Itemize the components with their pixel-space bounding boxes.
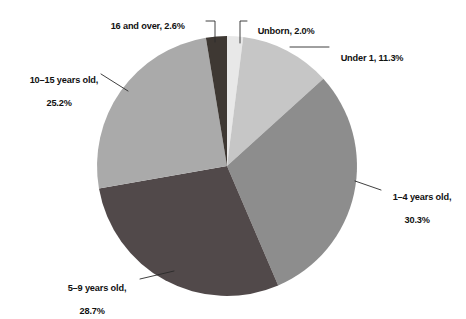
pie-slice-10-15-years-old[interactable] bbox=[97, 38, 227, 189]
leader-line-10-15-years-old bbox=[101, 74, 128, 91]
slice-label-10-15-years-old-line1: 10–15 years old, bbox=[30, 75, 99, 85]
pie-slices bbox=[97, 36, 357, 296]
slice-label-1-4-years-old: 1–4 years old, 30.3% bbox=[383, 181, 451, 249]
slice-label-5-9-years-old-line2: 28.7% bbox=[58, 306, 126, 317]
slice-label-16-and-over-text: 16 and over, 2.6% bbox=[111, 21, 185, 31]
slice-label-5-9-years-old-line1: 5–9 years old, bbox=[68, 283, 127, 293]
leader-line-1-4-years-old bbox=[355, 181, 381, 190]
slice-label-under-1-text: Under 1, 11.3% bbox=[341, 53, 404, 63]
slice-label-unborn-text: Unborn, 2.0% bbox=[258, 26, 315, 36]
slice-label-16-and-over: 16 and over, 2.6% bbox=[101, 10, 185, 44]
slice-label-under-1: Under 1, 11.3% bbox=[331, 42, 403, 76]
slice-label-10-15-years-old: 10–15 years old, 25.2% bbox=[20, 64, 98, 132]
slice-label-10-15-years-old-line2: 25.2% bbox=[20, 98, 98, 109]
slice-label-1-4-years-old-line2: 30.3% bbox=[383, 215, 451, 226]
slice-label-5-9-years-old: 5–9 years old, 28.7% bbox=[58, 272, 126, 319]
pie-chart-figure: 16 and over, 2.6% Unborn, 2.0% Under 1, … bbox=[0, 0, 466, 319]
slice-label-unborn: Unborn, 2.0% bbox=[248, 15, 315, 49]
slice-label-1-4-years-old-line1: 1–4 years old, bbox=[393, 192, 452, 202]
